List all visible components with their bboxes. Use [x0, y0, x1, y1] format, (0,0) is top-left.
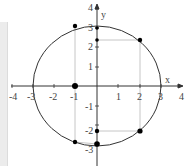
point	[72, 83, 78, 89]
svg-text:1: 1	[88, 61, 93, 72]
y-axis-label: y	[101, 9, 106, 20]
svg-text:-2: -2	[85, 125, 93, 136]
point	[73, 140, 77, 144]
point	[138, 38, 142, 42]
point	[137, 128, 142, 133]
point	[73, 24, 77, 28]
point	[94, 141, 100, 147]
svg-text:2: 2	[88, 41, 93, 52]
svg-text:-4: -4	[9, 91, 17, 102]
y-tick-labels: 4 3 2 1 -1 -2 -3	[85, 2, 93, 155]
points	[72, 24, 143, 147]
svg-text:3: 3	[88, 22, 93, 33]
svg-text:1: 1	[116, 91, 121, 102]
svg-text:-2: -2	[49, 91, 57, 102]
point	[95, 129, 99, 133]
point	[95, 38, 99, 42]
svg-text:-3: -3	[85, 144, 93, 155]
svg-text:4: 4	[88, 2, 93, 13]
svg-text:3: 3	[158, 91, 163, 102]
svg-text:2: 2	[137, 91, 142, 102]
x-axis-label: x	[165, 74, 170, 85]
svg-text:-3: -3	[27, 91, 35, 102]
svg-text:4: 4	[179, 91, 184, 102]
coordinate-diagram: -4 -3 -2 -1 1 2 3 4 4 3 2 1 -1 -2 -3 y x	[0, 0, 189, 166]
point	[95, 26, 99, 30]
svg-text:-1: -1	[70, 91, 78, 102]
svg-text:-1: -1	[85, 101, 93, 112]
